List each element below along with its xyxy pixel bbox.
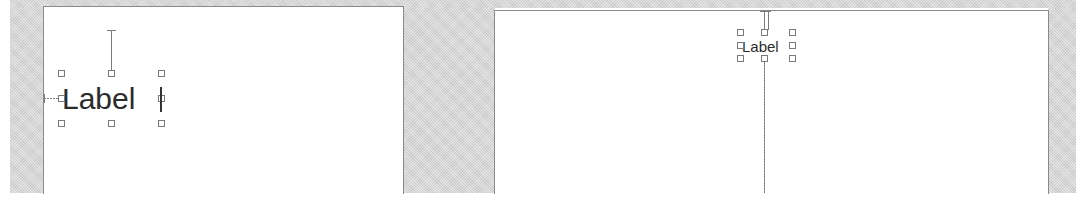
- leading-constraint-cap: [44, 94, 45, 103]
- label-left[interactable]: Label: [62, 84, 135, 114]
- top-constraint-line-2: [768, 10, 769, 30]
- workspace-background-middle: [403, 0, 495, 193]
- resize-handle-top-right[interactable]: [789, 29, 796, 36]
- resize-handle-bottom-left[interactable]: [737, 55, 744, 62]
- resize-handle-bottom-right[interactable]: [158, 120, 165, 127]
- resize-handle-top-right[interactable]: [158, 70, 165, 77]
- resize-handle-left[interactable]: [58, 95, 65, 102]
- resize-handle-bottom[interactable]: [761, 55, 768, 62]
- resize-handle-top[interactable]: [761, 29, 768, 36]
- top-constraint-cap: [760, 11, 771, 12]
- resize-handle-bottom[interactable]: [108, 120, 115, 127]
- text-cursor-right-edge: [160, 87, 162, 112]
- workspace-background-left: [10, 0, 44, 193]
- resize-handle-top-left[interactable]: [737, 29, 744, 36]
- bottom-constraint-line[interactable]: [764, 59, 765, 193]
- resize-handle-bottom-right[interactable]: [789, 55, 796, 62]
- top-constraint-cap: [107, 30, 116, 31]
- resize-handle-top[interactable]: [108, 70, 115, 77]
- resize-handle-bottom-left[interactable]: [58, 120, 65, 127]
- workspace-background-right: [1048, 0, 1076, 193]
- label-right[interactable]: Label: [742, 39, 779, 54]
- resize-handle-left[interactable]: [737, 42, 744, 49]
- resize-handle-top-left[interactable]: [58, 70, 65, 77]
- resize-handle-right[interactable]: [789, 42, 796, 49]
- top-constraint-line[interactable]: [111, 30, 112, 73]
